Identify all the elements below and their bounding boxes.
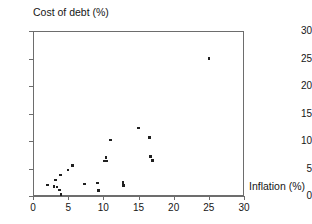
data-point (151, 159, 154, 162)
y-tick-mark (29, 141, 33, 142)
y-tick-mark (29, 31, 33, 32)
data-point (58, 189, 61, 192)
data-point (148, 136, 151, 139)
data-point (97, 189, 100, 192)
y-tick-label: 20 (286, 81, 312, 91)
x-tick-label: 20 (162, 203, 186, 213)
y-tick-mark (29, 114, 33, 115)
x-tick-label: 0 (21, 203, 45, 213)
x-tick-mark (209, 196, 210, 200)
y-tick-label: 15 (286, 109, 312, 119)
data-point (109, 139, 112, 142)
plot-area (33, 31, 244, 196)
x-tick-mark (244, 196, 245, 200)
x-tick-mark (139, 196, 140, 200)
x-tick-mark (68, 196, 69, 200)
y-tick-label: 10 (286, 136, 312, 146)
data-point (105, 156, 108, 159)
y-tick-mark (29, 169, 33, 170)
x-tick-label: 10 (91, 203, 115, 213)
data-point (83, 183, 86, 186)
x-tick-mark (103, 196, 104, 200)
x-axis-title: Inflation (%) (249, 180, 305, 193)
x-tick-label: 5 (56, 203, 80, 213)
data-point (137, 127, 140, 130)
y-tick-label: 25 (286, 54, 312, 64)
y-tick-label: 30 (286, 26, 312, 36)
x-tick-mark (174, 196, 175, 200)
x-tick-label: 30 (232, 203, 256, 213)
x-tick-label: 25 (197, 203, 221, 213)
data-point (46, 184, 49, 187)
data-point (54, 179, 57, 182)
data-point (208, 57, 211, 60)
scatter-chart: Cost of debt (%) 051015202530 0510152025… (0, 0, 312, 224)
data-point (122, 184, 125, 187)
data-point (60, 193, 63, 196)
y-tick-mark (29, 59, 33, 60)
y-tick-mark (29, 86, 33, 87)
data-point (59, 174, 62, 177)
x-tick-label: 15 (127, 203, 151, 213)
data-point (149, 155, 152, 158)
y-axis-title: Cost of debt (%) (33, 6, 109, 19)
data-point (122, 181, 125, 184)
x-tick-mark (33, 196, 34, 200)
data-point (96, 182, 99, 185)
data-point (71, 164, 74, 167)
y-tick-label: 5 (286, 164, 312, 174)
data-point (106, 160, 109, 163)
data-point (67, 169, 70, 172)
